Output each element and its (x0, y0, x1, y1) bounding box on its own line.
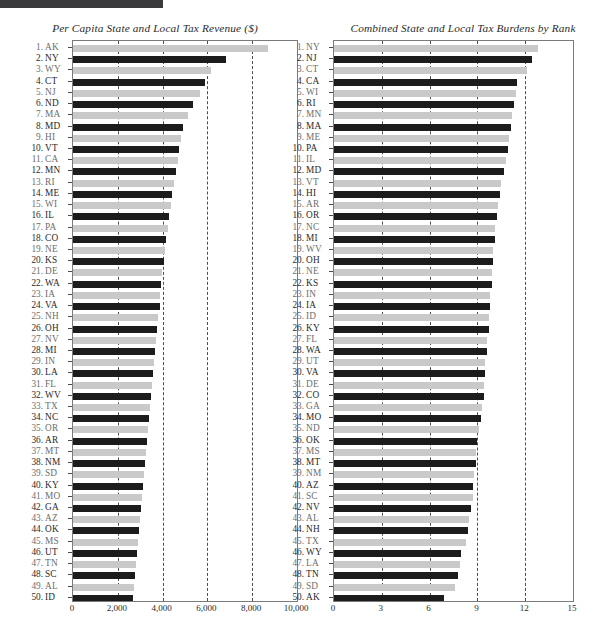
axis-tick-mark (68, 541, 72, 542)
axis-tick-mark (68, 529, 72, 530)
x-axis-tick-label: 4,000 (151, 603, 171, 613)
row-rank: 36. (31, 435, 43, 446)
row-label: 30.LA (0, 367, 70, 378)
row-rank: 37. (292, 446, 304, 457)
axis-tick-mark (329, 485, 333, 486)
x-axis-tick-label: 8,000 (241, 603, 261, 613)
row-label: 43.AZ (0, 513, 70, 524)
row-rank: 43. (292, 513, 304, 524)
gridline (525, 41, 526, 601)
row-label: 32.WV (0, 390, 70, 401)
row-rank: 26. (292, 323, 304, 334)
row-label: 21.DE (0, 266, 70, 277)
bar (334, 202, 498, 209)
row-rank: 10. (31, 143, 43, 154)
axis-tick-mark (68, 552, 72, 553)
axis-tick-mark (329, 563, 333, 564)
bar (73, 157, 178, 164)
row-state-abbr: VA (306, 367, 319, 378)
row-label: 21.NE (261, 266, 331, 277)
x-axis-tick-label: 2,000 (107, 603, 127, 613)
axis-tick-mark (68, 271, 72, 272)
axis-tick-mark (329, 328, 333, 329)
row-rank: 41. (31, 491, 43, 502)
axis-tick-mark (329, 552, 333, 553)
bar (334, 56, 532, 63)
row-label: 15.AR (261, 199, 331, 210)
row-label: 3.CT (261, 64, 331, 75)
row-label: 5.NJ (0, 87, 70, 98)
bar (73, 382, 152, 389)
row-state-abbr: MS (306, 446, 320, 457)
bar (73, 213, 169, 220)
row-state-abbr: HI (45, 132, 55, 143)
row-rank: 21. (31, 266, 43, 277)
axis-tick-mark (68, 518, 72, 519)
bar (334, 550, 461, 557)
row-rank: 25. (292, 311, 304, 322)
axis-tick-mark (68, 372, 72, 373)
row-rank: 41. (292, 491, 304, 502)
row-label: 50.AK (261, 592, 331, 603)
row-state-abbr: IA (306, 300, 316, 311)
row-rank: 33. (292, 401, 304, 412)
row-rank: 18. (292, 233, 304, 244)
row-rank: 5. (297, 87, 304, 98)
row-label: 1.NY (261, 42, 331, 53)
row-state-abbr: ME (45, 188, 59, 199)
x-axis-tick-label: 3 (379, 603, 384, 613)
row-rank: 33. (31, 401, 43, 412)
row-state-abbr: OR (45, 423, 58, 434)
row-rank: 23. (292, 289, 304, 300)
gridline (252, 41, 253, 601)
row-rank: 23. (31, 289, 43, 300)
x-axis-tick-label: 15 (568, 603, 577, 613)
row-label: 45.TX (261, 536, 331, 547)
bar (334, 67, 527, 74)
row-state-abbr: KY (45, 480, 59, 491)
row-rank: 31. (292, 379, 304, 390)
row-state-abbr: SD (306, 581, 318, 592)
row-label: 22.KS (261, 278, 331, 289)
row-label: 33.GA (261, 401, 331, 412)
bar (73, 146, 179, 153)
row-label: 42.NV (261, 502, 331, 513)
row-state-abbr: RI (306, 98, 316, 109)
row-rank: 10. (292, 143, 304, 154)
axis-tick-mark (68, 440, 72, 441)
row-state-abbr: NH (306, 524, 320, 535)
row-rank: 2. (36, 53, 43, 64)
row-state-abbr: KS (306, 278, 318, 289)
bar (73, 572, 135, 579)
row-rank: 7. (297, 109, 304, 120)
row-label: 10.PA (261, 143, 331, 154)
row-rank: 50. (292, 592, 304, 603)
row-rank: 26. (31, 323, 43, 334)
page-artifact (545, 405, 548, 413)
axis-tick-mark (68, 485, 72, 486)
row-rank: 46. (292, 547, 304, 558)
axis-tick-mark (68, 462, 72, 463)
x-axis-tick-label: 6,000 (196, 603, 216, 613)
axis-tick-mark (329, 451, 333, 452)
axis-tick-mark (329, 92, 333, 93)
axis-tick-mark (68, 148, 72, 149)
row-state-abbr: AL (45, 581, 58, 592)
axis-tick-mark (329, 238, 333, 239)
row-state-abbr: ND (306, 423, 320, 434)
row-label: 34.NC (0, 412, 70, 423)
row-state-abbr: NV (45, 334, 59, 345)
row-rank: 14. (292, 188, 304, 199)
row-rank: 19. (31, 244, 43, 255)
row-state-abbr: VT (45, 143, 58, 154)
bar (73, 79, 205, 86)
bar (73, 483, 143, 490)
row-state-abbr: WY (306, 547, 322, 558)
axis-tick-mark (68, 316, 72, 317)
bar (73, 415, 149, 422)
axis-tick-mark (68, 227, 72, 228)
axis-tick-mark (329, 473, 333, 474)
row-rank: 30. (31, 367, 43, 378)
axis-tick-mark (68, 126, 72, 127)
axis-tick-mark (68, 283, 72, 284)
